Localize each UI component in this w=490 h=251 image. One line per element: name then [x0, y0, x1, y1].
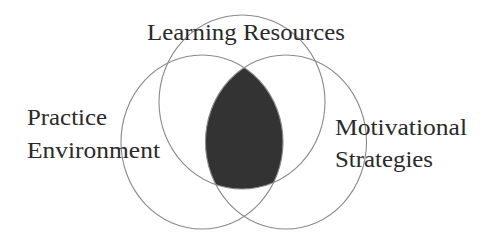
label-environment: Environment	[27, 138, 161, 163]
label-motivational: Motivational	[335, 115, 467, 140]
label-practice: Practice	[27, 105, 107, 130]
label-learning-resources: Learning Resources	[147, 20, 345, 45]
venn-diagram: Learning Resources Practice Environment …	[0, 0, 490, 251]
triple-intersection-region	[206, 55, 367, 229]
label-strategies: Strategies	[335, 147, 433, 172]
